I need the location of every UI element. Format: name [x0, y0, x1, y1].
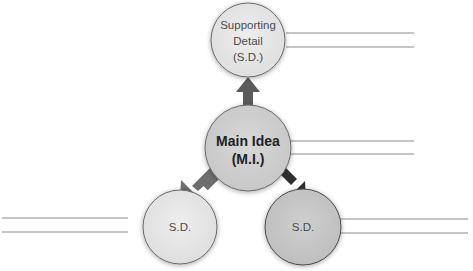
- main-node-label-line2: (M.I.): [232, 151, 265, 167]
- writing-lines-bottom-left: [2, 218, 128, 232]
- writing-lines-main: [286, 141, 414, 154]
- main-idea-diagram: Supporting Detail (S.D.) Main Idea (M.I.…: [0, 0, 473, 271]
- writing-lines-bottom-right: [340, 219, 468, 233]
- main-node-label-line1: Main Idea: [216, 133, 280, 149]
- top-node-label-line2: Detail: [233, 35, 262, 47]
- arrow-up-icon: [236, 77, 260, 108]
- top-node-label-line1: Supporting: [220, 19, 276, 31]
- bottom-left-node-label: S.D.: [169, 221, 191, 233]
- bottom-right-node-label: S.D.: [292, 221, 314, 233]
- top-node-label-line3: (S.D.): [233, 51, 263, 63]
- writing-lines-top: [286, 33, 414, 47]
